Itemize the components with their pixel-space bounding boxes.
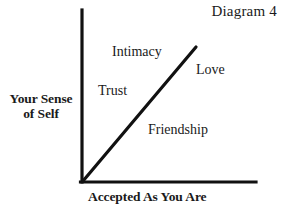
page-title: Diagram 4 bbox=[211, 3, 277, 19]
x-axis-label: Accepted As You Are bbox=[88, 190, 206, 205]
diagram-canvas: Diagram 4 Your Sense of Self Accepted As… bbox=[0, 0, 285, 212]
y-axis-label-line1: Your Sense bbox=[10, 91, 73, 106]
annotation-trust: Trust bbox=[98, 83, 127, 98]
y-axis-label: Your Sense of Self bbox=[4, 92, 78, 121]
annotation-love: Love bbox=[196, 62, 225, 77]
annotation-intimacy: Intimacy bbox=[112, 44, 162, 59]
y-axis-label-line2: of Self bbox=[4, 107, 78, 122]
diagonal-trend-line bbox=[83, 47, 196, 181]
annotation-friendship: Friendship bbox=[148, 122, 208, 137]
